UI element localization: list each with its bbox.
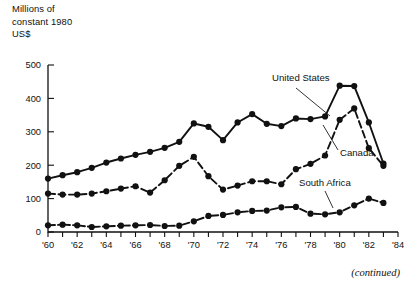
chart-figure: Millions of constant 1980 US$ 0100200300… bbox=[0, 0, 414, 285]
chart-plot-area: 0100200300400500 '60'62'64'66'68'70'72'7… bbox=[0, 0, 414, 285]
x-tick-label: '74 bbox=[246, 240, 258, 250]
data-point-marker bbox=[132, 183, 138, 189]
x-tick-label: '66 bbox=[129, 240, 141, 250]
data-point-marker bbox=[118, 185, 124, 191]
data-point-marker bbox=[322, 211, 328, 217]
data-point-marker bbox=[380, 163, 386, 169]
series-label-canada: Canada bbox=[340, 147, 374, 158]
data-point-marker bbox=[293, 204, 299, 210]
data-point-marker bbox=[162, 223, 168, 229]
data-series-group bbox=[48, 86, 383, 227]
data-point-marker bbox=[351, 83, 357, 89]
data-point-marker bbox=[59, 222, 65, 228]
series-line-south-africa bbox=[48, 199, 383, 227]
x-tick-label: '76 bbox=[275, 240, 287, 250]
data-point-marker bbox=[74, 169, 80, 175]
data-point-marker bbox=[205, 124, 211, 130]
data-point-marker bbox=[351, 202, 357, 208]
data-point-marker bbox=[249, 208, 255, 214]
data-point-marker bbox=[191, 154, 197, 160]
data-point-marker bbox=[220, 186, 226, 192]
series-line-united-states bbox=[48, 86, 383, 179]
y-axis-tick-labels: 0100200300400500 bbox=[25, 60, 41, 237]
data-point-marker bbox=[59, 191, 65, 197]
data-point-marker bbox=[337, 83, 343, 89]
data-point-marker bbox=[103, 159, 109, 165]
data-point-marker bbox=[45, 190, 51, 196]
data-point-marker bbox=[191, 218, 197, 224]
data-point-marker bbox=[380, 200, 386, 206]
x-tick-label: '60 bbox=[42, 240, 54, 250]
data-point-marker bbox=[147, 189, 153, 195]
data-point-marker bbox=[147, 149, 153, 155]
data-point-marker bbox=[103, 188, 109, 194]
annotation-leader-line bbox=[325, 191, 333, 208]
data-point-marker bbox=[103, 223, 109, 229]
data-point-marker bbox=[89, 190, 95, 196]
data-point-marker bbox=[307, 116, 313, 122]
x-tick-label: '70 bbox=[188, 240, 200, 250]
data-point-marker bbox=[132, 222, 138, 228]
data-point-marker bbox=[264, 121, 270, 127]
data-point-marker bbox=[249, 111, 255, 117]
data-point-marker bbox=[191, 120, 197, 126]
data-point-marker bbox=[162, 177, 168, 183]
data-point-marker bbox=[234, 119, 240, 125]
data-point-marker bbox=[220, 212, 226, 218]
data-point-marker bbox=[45, 175, 51, 181]
data-point-marker bbox=[307, 211, 313, 217]
data-point-marker bbox=[337, 209, 343, 215]
data-point-marker bbox=[147, 222, 153, 228]
series-annotation-group: United StatesCanadaSouth Africa bbox=[272, 72, 374, 208]
data-point-marker bbox=[293, 115, 299, 121]
data-point-marker bbox=[264, 208, 270, 214]
data-point-marker bbox=[278, 123, 284, 129]
data-point-marker bbox=[176, 163, 182, 169]
x-tick-label: '82 bbox=[363, 240, 375, 250]
data-point-marker bbox=[278, 204, 284, 210]
x-tick-label: '80 bbox=[334, 240, 346, 250]
data-point-marker bbox=[220, 137, 226, 143]
data-point-marker bbox=[176, 139, 182, 145]
data-point-marker bbox=[118, 155, 124, 161]
data-point-marker bbox=[205, 213, 211, 219]
data-point-marker bbox=[89, 224, 95, 230]
data-point-marker bbox=[322, 152, 328, 158]
data-point-marker bbox=[59, 172, 65, 178]
annotation-leader-line bbox=[296, 88, 330, 116]
data-point-marker bbox=[264, 178, 270, 184]
data-point-marker bbox=[293, 166, 299, 172]
data-point-marker bbox=[278, 181, 284, 187]
y-tick-label: 0 bbox=[36, 227, 41, 237]
y-tick-label: 400 bbox=[25, 94, 41, 104]
data-point-marker bbox=[234, 209, 240, 215]
data-point-marker bbox=[89, 165, 95, 171]
y-tick-label: 100 bbox=[25, 194, 41, 204]
y-tick-label: 200 bbox=[25, 161, 41, 171]
data-point-marker bbox=[366, 196, 372, 202]
data-point-marker bbox=[337, 117, 343, 123]
x-axis-tick-labels: '60'62'64'66'68'70'72'74'76'78'80'82'84 bbox=[42, 240, 404, 250]
data-marker-group bbox=[45, 83, 387, 230]
data-point-marker bbox=[45, 222, 51, 228]
data-point-marker bbox=[74, 222, 80, 228]
y-tick-label: 300 bbox=[25, 127, 41, 137]
continued-note: (continued) bbox=[351, 267, 400, 278]
y-tick-label: 500 bbox=[25, 60, 41, 70]
x-tick-label: '84 bbox=[392, 240, 404, 250]
series-label-united-states: United States bbox=[272, 72, 330, 83]
x-tick-label: '64 bbox=[100, 240, 112, 250]
data-point-marker bbox=[351, 105, 357, 111]
data-point-marker bbox=[249, 178, 255, 184]
series-label-south-africa: South Africa bbox=[299, 177, 351, 188]
x-tick-label: '68 bbox=[159, 240, 171, 250]
data-point-marker bbox=[366, 119, 372, 125]
data-point-marker bbox=[162, 145, 168, 151]
data-point-marker bbox=[74, 191, 80, 197]
x-tick-label: '62 bbox=[71, 240, 83, 250]
x-tick-label: '72 bbox=[217, 240, 229, 250]
data-point-marker bbox=[132, 152, 138, 158]
data-point-marker bbox=[307, 161, 313, 167]
data-point-marker bbox=[176, 223, 182, 229]
data-point-marker bbox=[118, 223, 124, 229]
